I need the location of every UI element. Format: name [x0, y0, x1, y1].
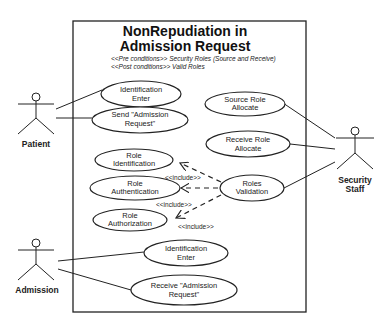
- actor-patient[interactable]: [18, 93, 54, 134]
- use-case-send-admission-request[interactable]: Send "Admission Request": [92, 107, 188, 133]
- use-case-role-authentication[interactable]: Role Authentication: [90, 176, 180, 200]
- svg-text:Receive "Admission: Receive "Admission: [151, 281, 217, 290]
- pre-conditions: <<Pre conditions>> Security Roles (Sourc…: [111, 55, 276, 63]
- svg-text:Identification: Identification: [120, 85, 162, 94]
- svg-text:Allocate: Allocate: [235, 144, 262, 153]
- include-label-3: <<include>>: [178, 223, 214, 230]
- svg-text:Enter: Enter: [177, 253, 195, 262]
- svg-text:Request": Request": [169, 290, 200, 299]
- actor-admission[interactable]: [18, 239, 54, 280]
- svg-text:Receive Role: Receive Role: [226, 135, 271, 144]
- use-case-source-role-allocate[interactable]: Source Role Allocate: [205, 92, 285, 116]
- use-case-role-identification[interactable]: Role Identification: [95, 149, 173, 171]
- svg-text:Send "Admission: Send "Admission: [112, 110, 169, 119]
- svg-text:Allocate: Allocate: [232, 103, 259, 112]
- svg-text:Request": Request": [125, 119, 156, 128]
- svg-text:Enter: Enter: [132, 94, 150, 103]
- svg-text:Authorization: Authorization: [108, 219, 152, 228]
- actor-security-staff[interactable]: [336, 127, 374, 169]
- actor-security-staff-label-2: Staff: [346, 184, 365, 194]
- svg-text:Identification: Identification: [113, 159, 155, 168]
- use-case-roles-validation[interactable]: Roles Validation: [220, 175, 284, 201]
- svg-text:Validation: Validation: [236, 187, 268, 196]
- actor-admission-label: Admission: [15, 285, 58, 295]
- include-label-2: <<include>>: [156, 201, 192, 208]
- use-case-receive-role-allocate[interactable]: Receive Role Allocate: [206, 131, 290, 157]
- include-relations: [176, 163, 221, 218]
- post-conditions: <<Post conditions>> Valid Roles: [111, 63, 205, 70]
- svg-text:Identification: Identification: [165, 244, 207, 253]
- use-case-patient-identification-enter[interactable]: Identification Enter: [101, 81, 181, 107]
- svg-text:Authentication: Authentication: [111, 187, 159, 196]
- system-title-line2: Admission Request: [120, 38, 251, 54]
- system-title-line1: NonRepudiation in: [123, 23, 247, 39]
- actor-patient-label: Patient: [22, 139, 51, 149]
- use-case-diagram: NonRepudiation in Admission Request <<Pr…: [0, 0, 389, 324]
- use-case-receive-admission-request[interactable]: Receive "Admission Request": [131, 275, 237, 305]
- use-case-admission-identification-enter[interactable]: Identification Enter: [144, 240, 228, 266]
- use-case-role-authorization[interactable]: Role Authorization: [93, 209, 167, 231]
